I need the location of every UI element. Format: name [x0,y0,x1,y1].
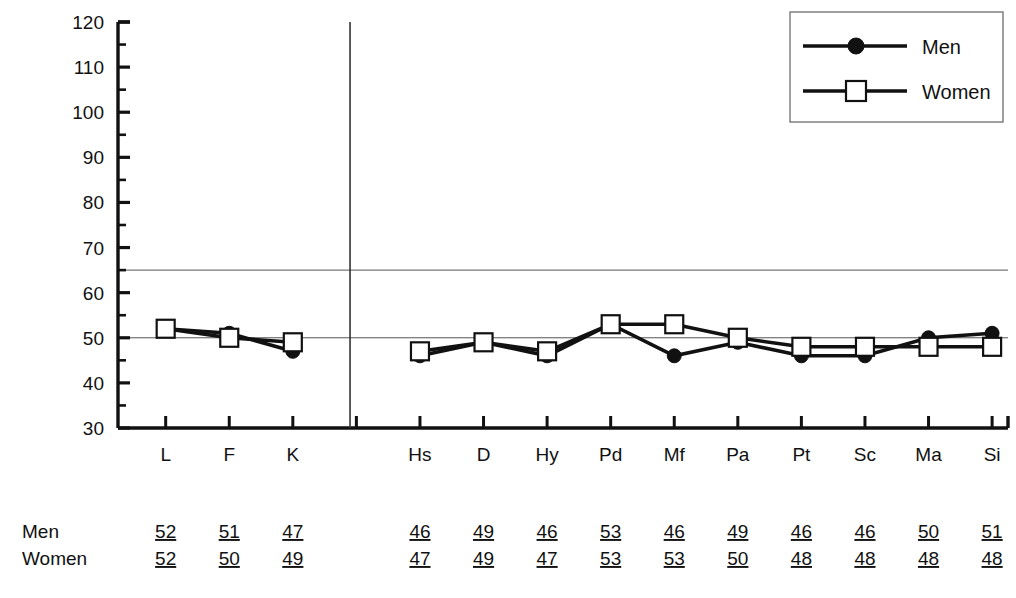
y-tick-label: 40 [83,373,104,394]
table-cell-men-si: 51 [982,521,1003,542]
data-point-men-mf[interactable] [667,349,681,363]
x-axis: LFKHsDHyPdMfPaPtScMaSi [118,416,1008,465]
y-tick-label: 70 [83,238,104,259]
x-tick-label-sc: Sc [854,444,876,465]
x-tick-label-k: K [286,444,299,465]
x-tick-label-f: F [223,444,235,465]
y-tick-label: 50 [83,328,104,349]
table-cell-men-pt: 46 [791,521,812,542]
x-tick-label-l: L [160,444,171,465]
data-point-women-si[interactable] [983,338,1001,356]
series-women [157,315,1001,360]
y-tick-label: 60 [83,283,104,304]
table-cell-men-hy: 46 [537,521,558,542]
table-cell-women-hs: 47 [409,548,430,569]
data-point-women-f[interactable] [220,329,238,347]
legend-label: Women [922,81,991,103]
table-cell-women-k: 49 [282,548,303,569]
x-tick-label-d: D [477,444,491,465]
table-cell-men-d: 49 [473,521,494,542]
table-row-women: Women52504947494753535048484848 [22,548,1003,569]
table-cell-women-l: 52 [155,548,176,569]
table-cell-men-pd: 53 [600,521,621,542]
data-point-women-hs[interactable] [411,342,429,360]
table-cell-men-pa: 49 [727,521,748,542]
y-tick-label: 100 [72,102,104,123]
x-tick-label-mf: Mf [664,444,686,465]
data-point-women-pd[interactable] [602,315,620,333]
table-cell-women-mf: 53 [664,548,685,569]
series-polyline [420,324,992,356]
table-cell-women-pd: 53 [600,548,621,569]
table-cell-women-pa: 50 [727,548,748,569]
table-cell-men-l: 52 [155,521,176,542]
table-cell-women-si: 48 [982,548,1003,569]
x-tick-label-ma: Ma [915,444,942,465]
data-point-women-ma[interactable] [920,338,938,356]
y-tick-label: 110 [74,57,104,78]
table-cell-women-d: 49 [473,548,494,569]
table-cell-men-f: 51 [219,521,240,542]
table-cell-men-mf: 46 [664,521,685,542]
legend-label: Men [922,36,961,58]
data-point-women-d[interactable] [475,333,493,351]
table-cell-women-f: 50 [219,548,240,569]
y-tick-label: 90 [83,147,104,168]
table-row-label: Men [22,521,59,542]
table-row-men: Men52514746494653464946465051 [22,521,1003,542]
y-tick-label: 120 [72,12,104,33]
reference-lines [118,270,1008,338]
legend-box [790,12,1003,122]
data-table: Men52514746494653464946465051Women525049… [22,521,1003,569]
chart-legend: MenWomen [790,12,1003,122]
mmpi-profile-chart: 30405060708090100110120LFKHsDHyPdMfPaPtS… [0,0,1016,598]
table-cell-women-ma: 48 [918,548,939,569]
y-tick-label: 30 [83,418,104,439]
table-cell-women-hy: 47 [537,548,558,569]
table-cell-men-sc: 46 [854,521,875,542]
x-tick-label-pa: Pa [726,444,750,465]
data-point-women-pt[interactable] [792,338,810,356]
x-tick-label-pt: Pt [792,444,811,465]
table-cell-men-ma: 50 [918,521,939,542]
x-tick-label-pd: Pd [599,444,622,465]
y-axis: 30405060708090100110120 [72,12,130,439]
table-cell-women-sc: 48 [854,548,875,569]
table-cell-women-pt: 48 [791,548,812,569]
chart-canvas: 30405060708090100110120LFKHsDHyPdMfPaPtS… [0,0,1016,598]
data-point-women-hy[interactable] [538,342,556,360]
table-cell-men-k: 47 [282,521,303,542]
y-tick-label: 80 [83,192,104,213]
data-series [157,315,1001,363]
x-tick-label-si: Si [984,444,1001,465]
data-point-women-k[interactable] [284,333,302,351]
legend-marker-open-square [846,81,866,101]
legend-marker-filled-circle [848,38,864,54]
data-point-women-mf[interactable] [665,315,683,333]
data-point-women-pa[interactable] [729,329,747,347]
data-point-women-sc[interactable] [856,338,874,356]
data-point-women-l[interactable] [157,320,175,338]
table-cell-men-hs: 46 [409,521,430,542]
x-tick-label-hy: Hy [535,444,559,465]
x-tick-label-hs: Hs [408,444,431,465]
table-row-label: Women [22,548,87,569]
